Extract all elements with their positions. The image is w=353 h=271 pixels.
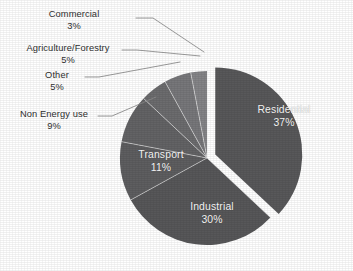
pie-label-residential-name: Residential (242, 104, 326, 117)
pie-label-industrial-name: Industrial (173, 201, 251, 214)
pie-label-agriculture-forestry: Agriculture/Forestry 5% (12, 43, 124, 66)
pie-label-non-energy-use: Non Energy use 9% (9, 109, 99, 132)
pie-label-non-energy-use-percent: 9% (9, 121, 99, 133)
pie-label-other: Other 5% (28, 70, 86, 93)
pie-chart-canvas (0, 0, 353, 271)
pie-label-transport-name: Transport (122, 149, 200, 162)
pie-chart-figure: Commercial 3% Agriculture/Forestry 5% Ot… (0, 0, 353, 271)
pie-label-other-percent: 5% (28, 82, 86, 94)
pie-label-commercial-percent: 3% (30, 21, 118, 33)
pie-label-non-energy-use-name: Non Energy use (9, 109, 99, 121)
pie-label-industrial: Industrial 30% (173, 201, 251, 226)
pie-label-industrial-percent: 30% (173, 214, 251, 227)
pie-label-other-name: Other (28, 70, 86, 82)
pie-label-commercial-name: Commercial (30, 9, 118, 21)
pie-label-agriculture-forestry-percent: 5% (12, 55, 124, 67)
pie-label-transport-percent: 11% (122, 162, 200, 175)
pie-label-residential-percent: 37% (242, 117, 326, 130)
pie-label-transport: Transport 11% (122, 149, 200, 174)
pie-label-residential: Residential 37% (242, 104, 326, 129)
pie-label-agriculture-forestry-name: Agriculture/Forestry (12, 43, 124, 55)
pie-label-commercial: Commercial 3% (30, 9, 118, 32)
leader-line-commercial (136, 18, 204, 52)
leader-line-agriculture-forestry (122, 50, 200, 56)
